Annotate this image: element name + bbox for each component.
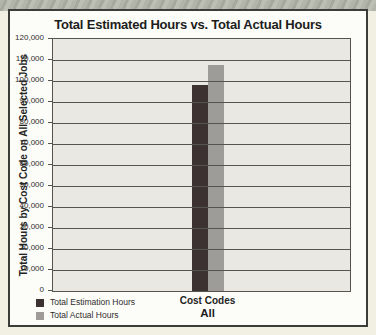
chart-panel: Total Estimated Hours vs. Total Actual H… xyxy=(8,9,368,327)
gridline xyxy=(53,144,350,145)
y-tick-label: 10,000 xyxy=(10,265,44,273)
gridline xyxy=(53,165,350,166)
y-tick-label: 70,000 xyxy=(10,139,44,147)
gridline xyxy=(53,228,350,229)
y-tick-label: 80,000 xyxy=(10,118,44,126)
gridline xyxy=(53,249,350,250)
gridline xyxy=(53,60,350,61)
chart-legend: Total Estimation Hours Total Actual Hour… xyxy=(36,298,135,324)
y-tick-label: 40,000 xyxy=(10,202,44,210)
y-tick-label: 60,000 xyxy=(10,160,44,168)
y-tick-label: 90,000 xyxy=(10,97,44,105)
y-tick-label: 110,000 xyxy=(10,55,44,63)
y-tick-label: 20,000 xyxy=(10,244,44,252)
actual-hours-swatch-icon xyxy=(36,312,44,320)
gridline xyxy=(53,207,350,208)
scanned-chart-page: Total Estimated Hours vs. Total Actual H… xyxy=(0,0,376,335)
plot-area xyxy=(52,38,351,292)
y-tick-label: 0 xyxy=(10,286,44,294)
y-tick-label: 30,000 xyxy=(10,223,44,231)
y-tick-label: 100,000 xyxy=(10,76,44,84)
gridline xyxy=(53,102,350,103)
bar-total-actual-hours xyxy=(208,65,224,291)
chart-title: Total Estimated Hours vs. Total Actual H… xyxy=(10,17,366,32)
legend-label: Total Actual Hours xyxy=(50,311,119,320)
legend-item-estimation: Total Estimation Hours xyxy=(36,298,135,307)
legend-item-actual: Total Actual Hours xyxy=(36,311,135,320)
y-tick-label: 120,000 xyxy=(10,34,44,42)
estimation-hours-swatch-icon xyxy=(36,299,44,307)
y-axis-ticks: 010,00020,00030,00040,00050,00060,00070,… xyxy=(10,38,52,292)
legend-label: Total Estimation Hours xyxy=(50,298,135,307)
y-tick-label: 50,000 xyxy=(10,181,44,189)
gridline xyxy=(53,270,350,271)
gridline xyxy=(53,81,350,82)
gridline xyxy=(53,186,350,187)
bar-total-estimation-hours xyxy=(192,85,208,291)
gridline xyxy=(53,123,350,124)
